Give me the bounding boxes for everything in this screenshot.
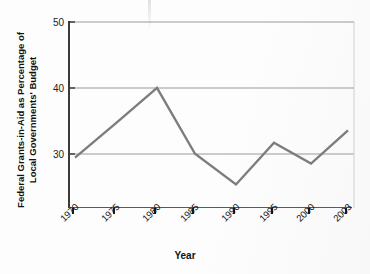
y-tick-label-30: 30 [40, 149, 64, 160]
plot-area [68, 22, 352, 208]
x-axis-title: Year [0, 250, 370, 261]
y-tick-label-40: 40 [40, 83, 64, 94]
y-tick-label-50: 50 [40, 17, 64, 28]
y-axis-title: Federal Grants-in-Aid as Percentage of L… [15, 20, 39, 220]
data-series-line [75, 88, 348, 185]
chart-page: 50 40 30 Federal Grants-in-Aid as Percen… [0, 0, 370, 274]
y-axis-tick-labels: 50 40 30 [38, 22, 64, 208]
plot-svg [70, 22, 354, 208]
